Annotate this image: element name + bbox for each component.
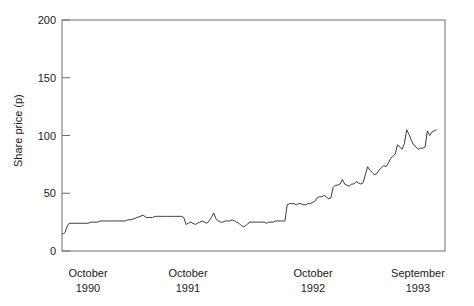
y-tick-labels: 200 150 100 50 0 [38, 14, 56, 257]
y-axis-title: Share price (p) [12, 94, 24, 167]
x-label-3-line1: September [391, 267, 445, 279]
share-price-line-chart: Share price (p) 200 150 100 50 0 October… [0, 0, 474, 306]
y-tick-label-50: 50 [44, 187, 56, 199]
x-label-3-line2: 1993 [406, 282, 430, 294]
y-tick-label-0: 0 [50, 245, 56, 257]
y-tick-label-200: 200 [38, 14, 56, 26]
x-label-2-line1: October [293, 267, 332, 279]
x-label-0-line1: October [68, 267, 107, 279]
x-axis-labels: October 1990 October 1991 October 1992 S… [68, 267, 445, 294]
x-label-1-line1: October [168, 267, 207, 279]
y-tick-label-100: 100 [38, 130, 56, 142]
plot-area-frame [62, 20, 445, 251]
share-price-series-line [62, 130, 437, 234]
y-tick-marks [62, 20, 70, 251]
x-label-1-line2: 1991 [176, 282, 200, 294]
chart-canvas: Share price (p) 200 150 100 50 0 October… [0, 0, 474, 306]
x-label-0-line2: 1990 [76, 282, 100, 294]
x-label-2-line2: 1992 [301, 282, 325, 294]
y-tick-label-150: 150 [38, 72, 56, 84]
